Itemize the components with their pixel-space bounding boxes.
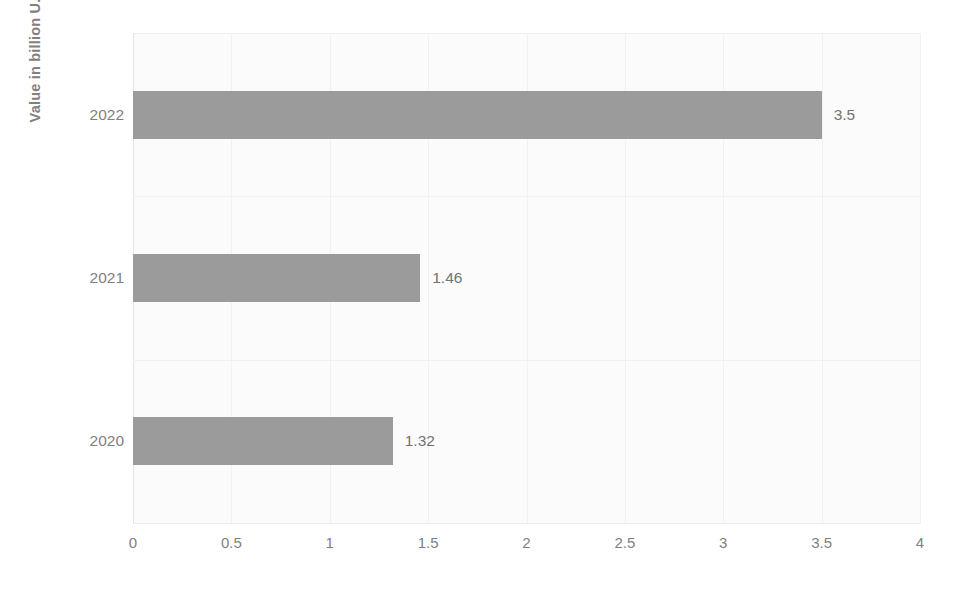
x-tick-label-2: 2 — [497, 530, 557, 556]
bar-chart: 3.51.461.32 202220212020 00.511.522.533.… — [0, 0, 973, 592]
y-axis-category-labels: 202220212020 — [60, 33, 124, 523]
category-label-2021: 2021 — [60, 267, 124, 289]
bar-value-label-2020: 1.32 — [405, 430, 435, 452]
category-label-2020: 2020 — [60, 430, 124, 452]
x-tick-label-4: 4 — [890, 530, 950, 556]
bar-value-label-2021: 1.46 — [432, 267, 462, 289]
x-tick-label-2.5: 2.5 — [595, 530, 655, 556]
value-labels: 3.51.461.32 — [133, 33, 973, 523]
x-tick-label-3.5: 3.5 — [792, 530, 852, 556]
bar-value-label-2022: 3.5 — [834, 104, 856, 126]
category-label-2022: 2022 — [60, 104, 124, 126]
x-axis-tick-labels: 00.511.522.533.54 — [133, 530, 920, 556]
x-tick-label-1.5: 1.5 — [398, 530, 458, 556]
x-tick-label-1: 1 — [300, 530, 360, 556]
x-tick-label-3: 3 — [693, 530, 753, 556]
x-axis-line — [133, 523, 921, 524]
x-tick-label-0: 0 — [103, 530, 163, 556]
y-axis-title: Value in billion U.S dillors — [22, 0, 48, 161]
x-tick-label-0.5: 0.5 — [201, 530, 261, 556]
